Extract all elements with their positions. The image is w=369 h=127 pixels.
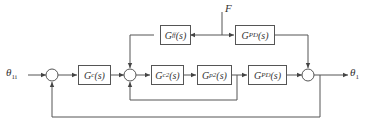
- summing-junction-3: [302, 69, 314, 81]
- block-gc: Gc(s): [78, 65, 111, 85]
- output-subscript: 1: [355, 73, 359, 81]
- block-gpd-top-subscript: PD: [249, 31, 258, 39]
- connection-lines: [0, 0, 369, 127]
- block-gp2-arg: (s): [216, 70, 227, 81]
- block-gff-arg: (s): [176, 30, 187, 41]
- block-gpd-top-arg: (s): [258, 30, 269, 41]
- input-subscript: 1i: [11, 73, 16, 81]
- block-gc-arg: (s): [94, 70, 105, 81]
- block-gpd-top: GPD(s): [235, 25, 275, 45]
- block-gc-symbol: G: [84, 70, 91, 81]
- output-signal-label: θ1: [350, 66, 359, 81]
- disturbance-label: F: [225, 2, 232, 14]
- block-gp2: Gp2(s): [197, 65, 232, 85]
- summing-junction-2: [124, 69, 136, 81]
- block-gc2-subscript: c2: [163, 71, 170, 79]
- block-gc2: Gc2(s): [151, 65, 184, 85]
- block-gpd-top-symbol: G: [241, 30, 248, 41]
- summing-junction-1: [46, 69, 58, 81]
- input-signal-label: θ1i: [6, 66, 17, 81]
- block-gff: Gff(s): [160, 25, 191, 45]
- block-gpd-main-subscript: PD: [261, 71, 270, 79]
- block-gff-symbol: G: [165, 30, 172, 41]
- block-gc2-arg: (s): [169, 70, 180, 81]
- block-gc2-symbol: G: [155, 70, 162, 81]
- block-gpd-main-arg: (s): [271, 70, 282, 81]
- block-gpd-main: GPD(s): [248, 65, 287, 85]
- block-gp2-subscript: p2: [209, 71, 216, 79]
- block-diagram: θ1i θ1 F Gc(s) Gc2(s) Gp2(s) GPD(s) Gff(…: [0, 0, 369, 127]
